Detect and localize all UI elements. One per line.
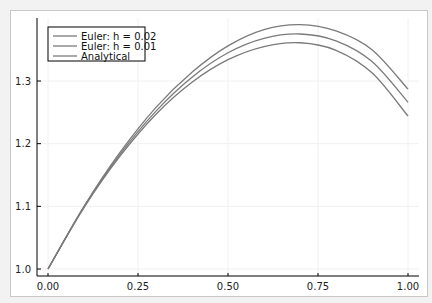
- x-tick-label: 0.00: [37, 281, 59, 292]
- legend-label: Analytical: [81, 51, 130, 62]
- x-tick-label: 0.25: [127, 281, 149, 292]
- y-tick-label: 1.3: [15, 76, 31, 87]
- x-tick-label: 0.50: [217, 281, 239, 292]
- y-tick-label: 1.0: [15, 264, 31, 275]
- y-tick-label: 1.2: [15, 138, 31, 149]
- x-tick-label: 0.75: [307, 281, 329, 292]
- x-tick-label: 1.00: [397, 281, 419, 292]
- line-chart: 0.000.250.500.751.00 1.01.11.21.3 Euler:…: [0, 0, 432, 303]
- legend: Euler: h = 0.02Euler: h = 0.01Analytical: [48, 27, 156, 62]
- y-tick-label: 1.1: [15, 201, 31, 212]
